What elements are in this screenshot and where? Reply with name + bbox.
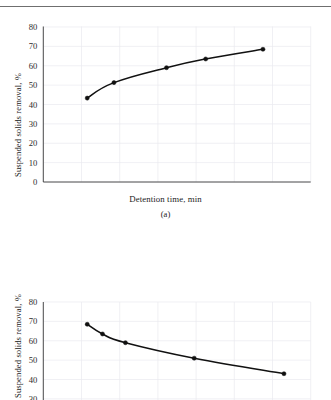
data-point <box>85 322 89 326</box>
x-tick-label: 60 <box>154 187 163 188</box>
header-rule <box>0 6 331 7</box>
x-tick-labels: 020406080100120140 <box>41 187 317 188</box>
y-tick-label: 40 <box>29 375 38 385</box>
x-tick-label: 40 <box>115 187 124 188</box>
running-head <box>0 0 331 3</box>
y-tick-label: 40 <box>29 100 38 110</box>
figure-a: Suspended solids removal, % 010203040506… <box>0 12 331 212</box>
data-point <box>85 96 89 100</box>
data-point <box>261 47 265 51</box>
data-point <box>100 332 104 336</box>
y-tick-label: 50 <box>29 80 38 90</box>
figure-a-chart: 01020304050607080020406080100120140 <box>0 12 331 188</box>
y-tick-labels: 01020304050607080 <box>29 22 38 187</box>
y-tick-label: 20 <box>29 138 38 148</box>
gridlines <box>43 302 310 400</box>
y-tick-label: 30 <box>29 119 38 129</box>
figure-b: Suspended solids removal, % 304050607080 <box>0 246 331 400</box>
x-tick-label: 100 <box>228 187 241 188</box>
y-tick-label: 70 <box>29 316 38 326</box>
y-tick-label: 60 <box>29 336 38 346</box>
data-point <box>123 341 127 345</box>
y-tick-label: 30 <box>29 394 38 400</box>
x-tick-label: 80 <box>192 187 201 188</box>
figure-a-caption: (a) <box>0 209 331 219</box>
figure-b-plot-area: Suspended solids removal, % 304050607080 <box>0 246 331 400</box>
y-tick-label: 60 <box>29 61 38 71</box>
data-point <box>204 57 208 61</box>
y-tick-label: 50 <box>29 355 38 365</box>
y-tick-label: 10 <box>29 158 38 168</box>
gridlines <box>43 27 310 183</box>
y-tick-labels: 304050607080 <box>29 297 38 400</box>
y-tick-label: 0 <box>33 177 37 187</box>
figure-b-y-axis-label: Suspended solids removal, % <box>13 294 23 398</box>
x-tick-label: 0 <box>41 187 45 188</box>
x-tick-label: 20 <box>77 187 86 188</box>
x-tick-label: 140 <box>304 187 317 188</box>
data-series <box>85 322 286 376</box>
data-point <box>282 372 286 376</box>
x-tick-label: 120 <box>266 187 279 188</box>
y-tick-label: 70 <box>29 41 38 51</box>
data-point <box>112 81 116 85</box>
data-series <box>85 47 265 100</box>
figure-a-x-axis-label: Detention time, min <box>0 194 331 204</box>
y-tick-label: 80 <box>29 297 38 307</box>
data-point <box>192 356 196 360</box>
y-tick-label: 80 <box>29 22 38 32</box>
figure-a-y-axis-label: Suspended solids removal, % <box>13 73 23 177</box>
data-point <box>164 66 168 70</box>
figure-a-plot-area: Suspended solids removal, % 010203040506… <box>0 12 331 188</box>
figure-b-chart: 304050607080 <box>0 246 331 400</box>
